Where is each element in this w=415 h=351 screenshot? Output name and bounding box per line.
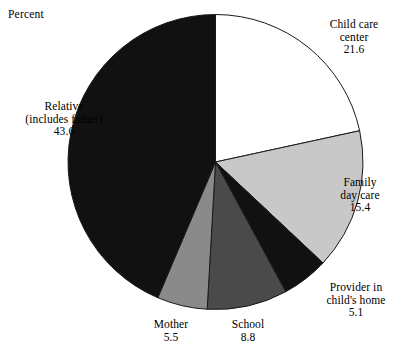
label-value: 8.8	[214, 331, 282, 344]
label-line-2: center	[298, 31, 410, 44]
label-line-1: Provider in	[300, 281, 412, 294]
label-line-1: Child care	[298, 18, 410, 31]
label-line-2: day care	[310, 189, 410, 202]
label-value: 5.5	[134, 331, 208, 344]
label-line-2: (includes father)	[5, 113, 123, 126]
label-line-1: Relative	[5, 100, 123, 113]
label-provider-in-childs-home: Provider in child's home 5.1	[300, 281, 412, 319]
label-family-day-care: Family day care 15.4	[310, 176, 410, 214]
label-value: 21.6	[298, 43, 410, 56]
label-value: 5.1	[300, 306, 412, 319]
label-mother: Mother 5.5	[134, 318, 208, 343]
label-value: 15.4	[310, 201, 410, 214]
label-relative-includes-father: Relative (includes father) 43.6	[5, 100, 123, 138]
label-line-2: child's home	[300, 294, 412, 307]
pie-chart: Percent Child care center 21.6 Family da…	[0, 0, 415, 351]
label-value: 43.6	[5, 125, 123, 138]
label-school: School 8.8	[214, 318, 282, 343]
label-line-1: Family	[310, 176, 410, 189]
label-child-care-center: Child care center 21.6	[298, 18, 410, 56]
label-line-1: School	[214, 318, 282, 331]
label-line-1: Mother	[134, 318, 208, 331]
